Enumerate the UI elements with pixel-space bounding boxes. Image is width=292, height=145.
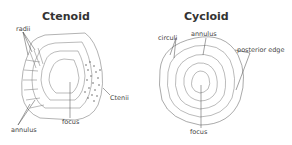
cycloid-label-posterior-edge: posterior edge: [237, 46, 284, 54]
cycloid-label-circuli: circuli: [158, 34, 177, 42]
cycloid-label-focus: focus: [190, 128, 207, 136]
ctenoid-label-ctenii: Ctenii: [110, 94, 129, 102]
ctenoid-label-focus: focus: [62, 118, 79, 126]
ctenoid-title: Ctenoid: [42, 10, 90, 23]
cycloid-title: Cycloid: [184, 10, 229, 23]
ctenoid-label-annulus: annulus: [11, 126, 37, 134]
ctenoid-label-radii: radii: [16, 25, 30, 33]
ctenoid-scale-drawing: [22, 33, 103, 120]
cycloid-label-annulus: annulus: [191, 30, 217, 38]
